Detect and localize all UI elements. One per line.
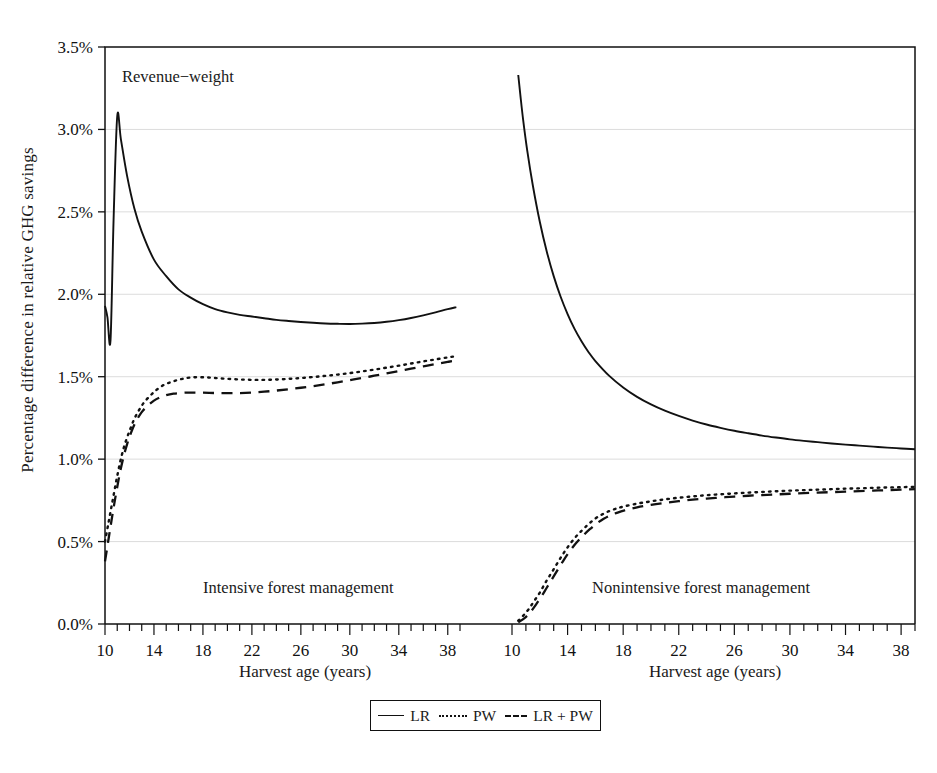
- x-axis-title-left: Harvest age (years): [175, 662, 435, 682]
- svg-text:0.0%: 0.0%: [58, 615, 93, 634]
- legend-item-lr-pw: LR + PW: [505, 707, 593, 725]
- legend-label-pw: PW: [473, 707, 496, 725]
- svg-text:30: 30: [341, 641, 358, 660]
- panel-label-intensive: Intensive forest management: [203, 578, 394, 598]
- svg-text:22: 22: [670, 641, 687, 660]
- svg-text:34: 34: [837, 641, 855, 660]
- legend: LR PW LR + PW: [370, 700, 601, 731]
- svg-text:0.5%: 0.5%: [58, 533, 93, 552]
- svg-text:1.0%: 1.0%: [58, 450, 93, 469]
- svg-text:14: 14: [145, 641, 163, 660]
- solid-line-swatch: [378, 715, 404, 716]
- svg-text:14: 14: [559, 641, 577, 660]
- svg-text:2.0%: 2.0%: [58, 285, 93, 304]
- legend-label-lr-pw: LR + PW: [533, 707, 593, 725]
- svg-text:38: 38: [439, 641, 456, 660]
- svg-text:1.5%: 1.5%: [58, 368, 93, 387]
- svg-text:22: 22: [243, 641, 260, 660]
- chart-figure: 0.0%0.5%1.0%1.5%2.0%2.5%3.0%3.5%10141822…: [0, 0, 937, 773]
- y-axis-title: Percentage difference in relative GHG sa…: [18, 70, 38, 550]
- legend-item-pw: PW: [439, 707, 496, 725]
- legend-label-lr: LR: [410, 707, 430, 725]
- dashed-line-swatch: [505, 715, 527, 717]
- svg-text:10: 10: [504, 641, 521, 660]
- svg-text:18: 18: [615, 641, 632, 660]
- svg-text:38: 38: [893, 641, 910, 660]
- svg-text:26: 26: [292, 641, 309, 660]
- svg-text:3.0%: 3.0%: [58, 120, 93, 139]
- svg-text:2.5%: 2.5%: [58, 203, 93, 222]
- revenue-weight-annotation: Revenue−weight: [122, 67, 234, 87]
- chart-canvas: 0.0%0.5%1.0%1.5%2.0%2.5%3.0%3.5%10141822…: [0, 0, 937, 773]
- svg-text:18: 18: [194, 641, 211, 660]
- x-axis-title-right: Harvest age (years): [585, 662, 845, 682]
- panel-label-nonintensive: Nonintensive forest management: [592, 578, 810, 598]
- svg-text:26: 26: [726, 641, 743, 660]
- svg-text:30: 30: [781, 641, 798, 660]
- legend-item-lr: LR: [378, 707, 430, 725]
- svg-text:3.5%: 3.5%: [58, 38, 93, 57]
- dotted-line-swatch: [439, 715, 467, 717]
- svg-text:34: 34: [390, 641, 408, 660]
- svg-text:10: 10: [97, 641, 114, 660]
